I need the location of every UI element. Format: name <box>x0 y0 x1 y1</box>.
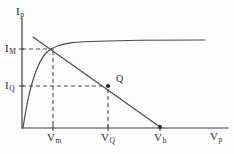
y-tick-label-iq: IQ <box>5 80 15 91</box>
x-axis-label-vp: Vp <box>210 131 222 142</box>
q-point-dot <box>106 84 110 88</box>
load-line <box>33 37 160 127</box>
saturation-curve <box>23 40 205 128</box>
x-tick-label-vm-text: V <box>47 131 55 143</box>
x-tick-label-vm-sub: m <box>55 136 61 145</box>
y-axis-label-ip-sub: p <box>20 10 24 19</box>
x-tick-label-vb: Vb <box>154 132 166 143</box>
x-tick-label-vq: VQ <box>101 132 115 143</box>
y-tick-label-iq-sub: Q <box>9 84 15 93</box>
y-tick-label-im-sub: M <box>9 47 16 56</box>
x-tick-label-vm: Vm <box>47 132 61 143</box>
q-point-label: Q <box>116 74 123 84</box>
x-tick-label-vb-sub: b <box>162 136 166 145</box>
x-tick-label-vb-text: V <box>154 131 162 143</box>
x-axis-label-vp-sub: p <box>218 135 222 144</box>
plate-characteristic-figure: Ip IM IQ Vm VQ Vb Vp Q <box>0 0 234 154</box>
x-tick-label-vq-sub: Q <box>109 136 115 145</box>
x-axis-label-vp-text: V <box>210 130 218 142</box>
y-tick-label-im: IM <box>5 43 16 54</box>
x-tick-label-vq-text: V <box>101 131 109 143</box>
vb-intercept-dot <box>158 125 162 129</box>
y-axis-label-ip: Ip <box>16 6 24 17</box>
